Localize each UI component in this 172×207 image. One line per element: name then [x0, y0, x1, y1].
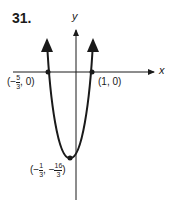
left-root-point: [46, 70, 51, 75]
right-root-label: (1, 0): [98, 76, 121, 87]
parabola-curve: [47, 42, 93, 158]
left-root-label: (−53, 0): [7, 74, 35, 91]
y-axis-label: y: [72, 10, 78, 22]
vertex-point: [68, 156, 73, 161]
right-root-point: [90, 70, 95, 75]
graph-canvas: [0, 0, 172, 207]
vertex-label: (−13, −163): [30, 162, 66, 179]
x-axis-label: x: [159, 64, 165, 76]
